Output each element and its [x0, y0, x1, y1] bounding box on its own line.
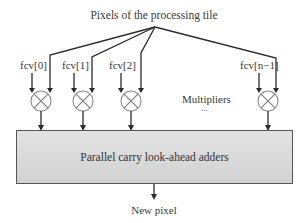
ellipsis: ... — [201, 104, 208, 113]
arrowheads-top — [29, 88, 279, 93]
multiplier-icons — [31, 91, 278, 111]
multiplier-icon-1 — [73, 91, 93, 111]
diagram-canvas — [0, 0, 308, 223]
multiplier-icon-n — [258, 91, 278, 111]
coefficient-label-0: fcv[0] — [20, 60, 47, 71]
coefficient-label-n: fcv[n−1] — [240, 60, 279, 71]
multiplier-output-arrows — [41, 111, 268, 127]
adder-label: Parallel carry look-ahead adders — [16, 130, 293, 184]
coefficient-label-1: fcv[1] — [62, 60, 89, 71]
diagram-title: Pixels of the processing tile — [0, 10, 308, 22]
multiplier-icon-2 — [121, 91, 141, 111]
output-label: New pixel — [0, 205, 308, 216]
coefficient-arrows — [32, 73, 259, 90]
multiplier-icon-0 — [31, 91, 51, 111]
coefficient-label-2: fcv[2] — [109, 60, 136, 71]
